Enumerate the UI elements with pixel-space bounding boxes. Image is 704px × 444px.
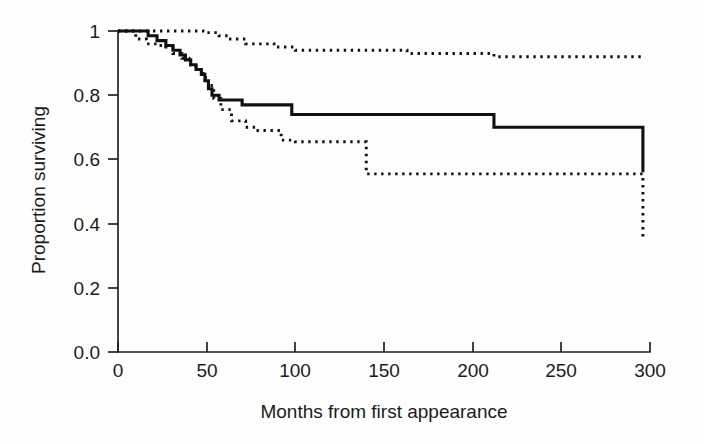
x-tick-label-100: 100 xyxy=(279,360,311,381)
x-axis-title: Months from first appearance xyxy=(260,401,507,422)
y-axis-ticks xyxy=(108,31,118,352)
km-curves xyxy=(118,31,643,236)
y-tick-label-0.4: 0.4 xyxy=(74,214,101,235)
x-tick-label-50: 50 xyxy=(196,360,217,381)
axis-spines xyxy=(118,31,650,352)
y-tick-label-0.6: 0.6 xyxy=(74,149,100,170)
chart-canvas: 1 0.8 0.6 0.4 0.2 0.0 0 50 100 150 200 2… xyxy=(0,0,704,444)
survival-curve xyxy=(118,31,643,172)
x-tick-label-0: 0 xyxy=(113,360,124,381)
y-tick-label-0.0: 0.0 xyxy=(74,342,100,363)
x-tick-label-300: 300 xyxy=(634,360,666,381)
x-axis-ticks xyxy=(118,342,650,352)
x-tick-label-150: 150 xyxy=(368,360,400,381)
y-tick-label-1.0: 1 xyxy=(89,21,100,42)
survival-chart-figure: 1 0.8 0.6 0.4 0.2 0.0 0 50 100 150 200 2… xyxy=(0,0,704,444)
x-tick-label-200: 200 xyxy=(457,360,489,381)
y-tick-label-0.8: 0.8 xyxy=(74,85,100,106)
y-axis-title: Proportion surviving xyxy=(28,106,49,274)
y-axis-tick-labels: 1 0.8 0.6 0.4 0.2 0.0 xyxy=(74,21,101,363)
upper-confidence-band xyxy=(118,31,643,58)
lower-confidence-band xyxy=(118,31,643,236)
y-tick-label-0.2: 0.2 xyxy=(74,278,100,299)
x-axis-tick-labels: 0 50 100 150 200 250 300 xyxy=(113,360,666,381)
x-tick-label-250: 250 xyxy=(545,360,577,381)
